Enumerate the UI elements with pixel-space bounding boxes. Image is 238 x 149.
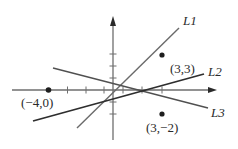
line-l2 xyxy=(33,74,204,121)
point-label-neg4-0: (−4,0) xyxy=(21,95,53,110)
x-axis-arrow-icon xyxy=(208,87,217,93)
line-label-l3: L3 xyxy=(210,105,225,120)
point-neg4-0 xyxy=(46,87,52,93)
y-axis-arrow-icon xyxy=(110,16,116,26)
coordinate-diagram: (−4,0) (3,3) (3,−2) L1 L2 L3 xyxy=(0,0,238,149)
x-axis xyxy=(12,87,217,94)
line-label-l2: L2 xyxy=(207,64,222,79)
point-3-3 xyxy=(159,52,164,57)
point-label-3-neg2: (3,−2) xyxy=(146,120,178,135)
point-3-neg2 xyxy=(159,111,164,116)
line-label-l1: L1 xyxy=(182,13,197,28)
y-axis xyxy=(110,16,117,140)
point-label-3-3: (3,3) xyxy=(170,61,195,76)
